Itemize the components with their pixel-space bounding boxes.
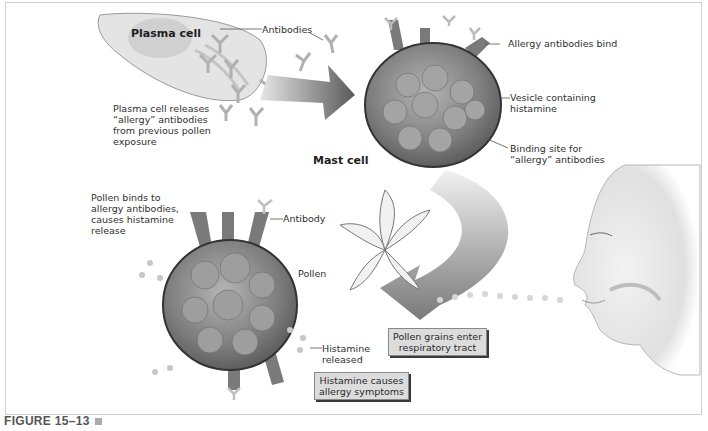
allergy-bind-label: Allergy antibodies bind bbox=[508, 38, 617, 49]
antibody-label: Antibody bbox=[283, 213, 325, 224]
figure-caption: FIGURE 15–13 bbox=[4, 414, 102, 428]
vesicle-label: Vesicle containing histamine bbox=[510, 92, 596, 114]
pollen-binds-label: Pollen binds to allergy antibodies, caus… bbox=[91, 192, 179, 236]
pollen-enter-box: Pollen grains enter respiratory tract bbox=[388, 328, 487, 356]
arrow-to-mast-cell bbox=[260, 65, 355, 120]
mast-cell-label: Mast cell bbox=[313, 154, 369, 167]
square-bullet-icon bbox=[95, 418, 102, 425]
figure-number: FIGURE 15–13 bbox=[4, 414, 90, 428]
antibodies-label: Antibodies bbox=[262, 24, 312, 35]
plasma-cell-label: Plasma cell bbox=[131, 27, 201, 40]
plasma-release-label: Plasma cell releases “allergy” antibodie… bbox=[113, 103, 211, 147]
histamine-causes-box: Histamine causes allergy symptoms bbox=[314, 372, 409, 400]
human-face-illustration bbox=[574, 165, 700, 375]
pollen-label: Pollen bbox=[298, 268, 326, 279]
curved-arrow-to-pollen bbox=[380, 170, 508, 320]
histamine-released-label: Histamine released bbox=[322, 343, 370, 365]
binding-site-label: Binding site for “allergy” antibodies bbox=[510, 143, 605, 165]
mast-cell-top bbox=[365, 16, 501, 167]
